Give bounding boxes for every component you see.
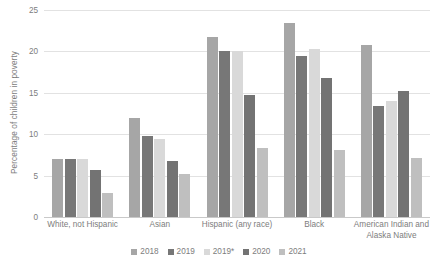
bar-groups (44, 10, 430, 217)
legend-label: 2020 (252, 247, 270, 256)
bar (321, 78, 332, 217)
bar (219, 51, 230, 217)
bar (90, 170, 101, 217)
y-axis-tick-label: 15 (29, 88, 38, 97)
bar (284, 23, 295, 217)
x-axis-category-label-line: Alaska Native (353, 231, 430, 242)
bar (232, 51, 243, 217)
bar (361, 45, 372, 217)
legend-swatch-icon (168, 249, 174, 255)
bar (309, 49, 320, 217)
bar (398, 91, 409, 217)
x-axis-category-label: American Indian andAlaska Native (353, 220, 430, 241)
y-axis-tick-label: 5 (33, 171, 38, 180)
x-axis-category-label: Hispanic (any race) (198, 220, 275, 241)
plot-area: 0510152025 (44, 10, 430, 217)
bar (411, 158, 422, 217)
x-axis-category-label-line: Hispanic (any race) (198, 220, 275, 231)
bar (179, 174, 190, 217)
y-axis-tick-label: 10 (29, 130, 38, 139)
x-axis-category-label: Asian (121, 220, 198, 241)
x-axis-category-label: White, not Hispanic (44, 220, 121, 241)
legend-item[interactable]: 2019 (168, 247, 195, 256)
bar (334, 150, 345, 217)
bar-chart: Percentage of children in poverty 051015… (0, 0, 438, 269)
bar (386, 101, 397, 217)
x-axis-line (44, 217, 430, 218)
x-axis-labels: White, not HispanicAsianHispanic (any ra… (44, 220, 430, 241)
bar (65, 159, 76, 217)
bar (52, 159, 63, 217)
bar (296, 56, 307, 217)
legend-item[interactable]: 2020 (243, 247, 270, 256)
legend-item[interactable]: 2018 (131, 247, 158, 256)
legend-label: 2019 (177, 247, 195, 256)
legend-swatch-icon (279, 249, 285, 255)
x-axis-category-label: Black (276, 220, 353, 241)
bar-group (44, 10, 121, 217)
bar (154, 139, 165, 217)
bar (102, 193, 113, 217)
legend-item[interactable]: 2019* (204, 247, 234, 256)
y-axis-tick-label: 25 (29, 6, 38, 15)
bar-group (276, 10, 353, 217)
bar (167, 161, 178, 217)
bar-group (198, 10, 275, 217)
x-axis-category-label-line: Black (276, 220, 353, 231)
x-axis-category-label-line: White, not Hispanic (44, 220, 121, 231)
legend-label: 2019* (213, 247, 234, 256)
y-axis-title: Percentage of children in poverty (10, 33, 19, 193)
legend-swatch-icon (131, 249, 137, 255)
bar (77, 159, 88, 217)
legend-label: 2021 (288, 247, 306, 256)
bar (257, 148, 268, 217)
y-axis-tick-label: 20 (29, 47, 38, 56)
legend: 201820192019*20202021 (0, 247, 438, 256)
legend-swatch-icon (204, 249, 210, 255)
x-axis-category-label-line: American Indian and (353, 220, 430, 231)
bar (129, 118, 140, 217)
legend-label: 2018 (140, 247, 158, 256)
bar (373, 106, 384, 217)
bar-group (121, 10, 198, 217)
legend-swatch-icon (243, 249, 249, 255)
y-axis-tick-label: 0 (33, 213, 38, 222)
bar (207, 37, 218, 217)
bar-group (353, 10, 430, 217)
legend-item[interactable]: 2021 (279, 247, 306, 256)
x-axis-category-label-line: Asian (121, 220, 198, 231)
bar (244, 95, 255, 217)
bar (142, 136, 153, 217)
